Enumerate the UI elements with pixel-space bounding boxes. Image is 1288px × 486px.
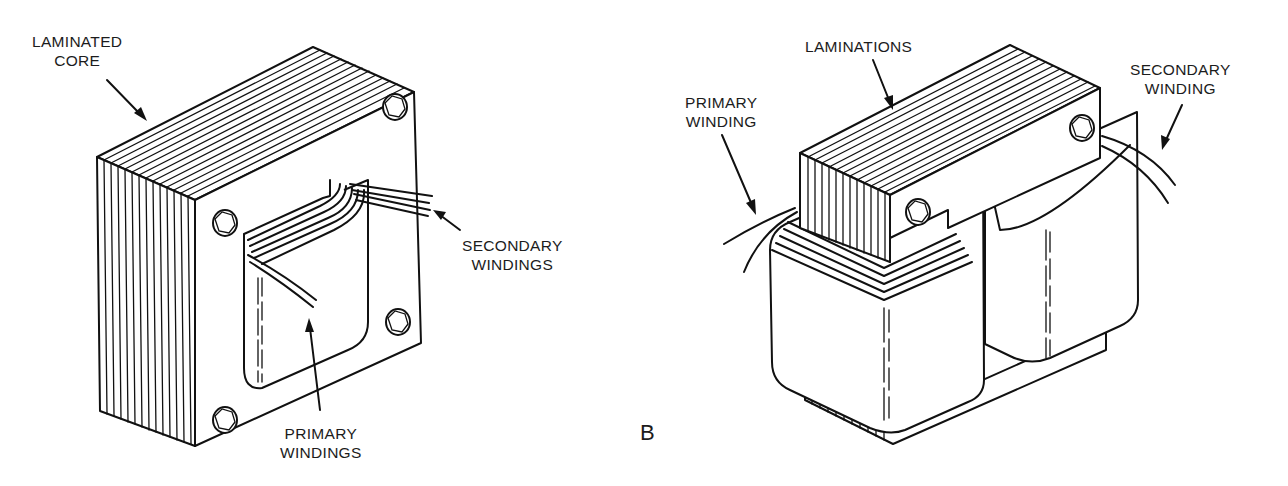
label-laminations: LAMINATIONS bbox=[805, 37, 912, 56]
core-transformer-drawing bbox=[722, 45, 1182, 444]
label-primary-winding: PRIMARY WINDING bbox=[685, 93, 757, 131]
bolt-icon bbox=[383, 94, 407, 120]
bolt-icon bbox=[213, 407, 237, 433]
bolt-icon bbox=[1070, 115, 1094, 141]
bolt-icon bbox=[386, 309, 410, 335]
transformer-diagrams bbox=[0, 0, 1288, 486]
figure-letter: B bbox=[640, 420, 655, 446]
label-secondary-windings: SECONDARY WINDINGS bbox=[462, 236, 563, 274]
label-laminated-core: LAMINATED CORE bbox=[32, 32, 122, 70]
label-secondary-winding: SECONDARY WINDING bbox=[1130, 60, 1231, 98]
bolt-icon bbox=[906, 199, 930, 225]
label-primary-windings: PRIMARY WINDINGS bbox=[280, 424, 362, 462]
shell-transformer-drawing bbox=[97, 47, 460, 446]
bolt-icon bbox=[213, 210, 237, 236]
